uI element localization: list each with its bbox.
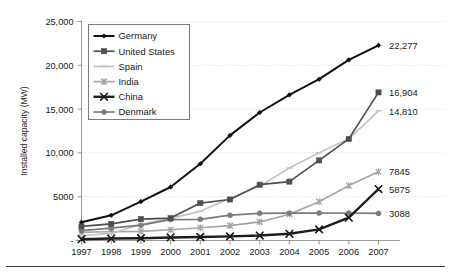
data-point: [376, 211, 381, 216]
line-chart: -500010,00015,00020,00025,000 1997199819…: [0, 0, 451, 275]
end-label-india: 7845: [389, 166, 410, 177]
y-tick-label: -: [70, 236, 73, 246]
data-point: [109, 221, 114, 226]
data-point: [287, 211, 292, 216]
y-axis-title: Installed capacity (MW): [19, 86, 29, 175]
x-tick-label: 2001: [190, 247, 210, 257]
data-point: [198, 217, 203, 222]
legend-label: Spain: [119, 61, 143, 72]
data-point: [138, 217, 143, 222]
x-tick-label: 1999: [131, 247, 151, 257]
legend-marker: [102, 110, 107, 115]
data-point: [257, 211, 262, 216]
end-label-germany: 22,277: [389, 40, 418, 51]
data-point: [317, 211, 322, 216]
data-point: [317, 158, 322, 163]
legend-label: China: [119, 91, 144, 102]
y-tick-label: 10,000: [45, 148, 73, 158]
x-tick-label: 2006: [339, 247, 359, 257]
end-label-denmark: 3088: [389, 208, 410, 219]
legend-item-china[interactable]: China: [94, 91, 144, 102]
data-point: [376, 168, 382, 175]
y-axis-ticks: -500010,00015,00020,00025,000: [45, 17, 81, 246]
data-point: [228, 213, 233, 218]
x-tick-label: 2003: [249, 247, 269, 257]
x-tick-label: 1997: [71, 247, 91, 257]
y-tick-label: 5000: [53, 192, 73, 202]
x-tick-label: 1998: [101, 247, 121, 257]
data-point: [138, 223, 143, 228]
end-label-china: 5875: [389, 184, 410, 195]
data-point: [257, 182, 262, 187]
chart-canvas: -500010,00015,00020,00025,000 1997199819…: [0, 0, 451, 275]
legend-marker: [101, 49, 106, 54]
x-tick-label: 2000: [160, 247, 180, 257]
y-tick-label: 15,000: [45, 105, 73, 115]
end-label-united-states: 16,904: [389, 87, 418, 98]
x-tick-label: 2007: [368, 247, 388, 257]
data-point: [198, 201, 203, 206]
x-axis-ticks: 1997199819992000200120022003200420052006…: [71, 241, 388, 257]
data-point: [375, 186, 382, 193]
x-tick-label: 2002: [220, 247, 240, 257]
data-point: [346, 182, 352, 189]
chart-legend: GermanyUnited StatesSpainIndiaChinaDenma…: [89, 25, 190, 120]
x-tick-label: 2005: [309, 247, 329, 257]
data-point: [346, 136, 351, 141]
data-point: [287, 179, 292, 184]
y-tick-label: 20,000: [45, 61, 73, 71]
x-tick-label: 2004: [279, 247, 299, 257]
y-tick-label: 25,000: [45, 17, 73, 27]
legend-label: Denmark: [119, 106, 157, 117]
series-end-labels: 22,27716,90414,810784558753088: [389, 40, 418, 219]
legend-label: Germany: [119, 30, 158, 41]
data-point: [168, 216, 173, 221]
data-point: [227, 197, 232, 202]
legend-label: India: [119, 76, 140, 87]
legend-label: United States: [119, 46, 176, 57]
end-label-spain: 14,810: [389, 106, 418, 117]
data-point: [376, 90, 381, 95]
